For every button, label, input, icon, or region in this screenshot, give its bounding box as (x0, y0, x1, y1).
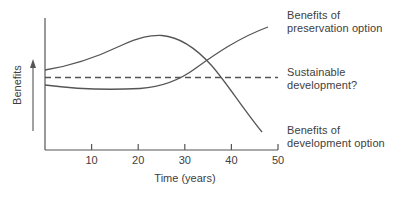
x-tick-label-50: 50 (263, 154, 293, 166)
preservation-benefits-curve (45, 35, 262, 132)
x-tick-label-10: 10 (77, 154, 107, 166)
y-axis-title: Benefits (11, 50, 23, 120)
development-option-label: Benefits of development option (287, 124, 385, 150)
x-tick-label-40: 40 (216, 154, 246, 166)
x-axis-title: Time (years) (115, 172, 255, 184)
development-benefits-curve (45, 27, 268, 89)
x-tick-label-20: 20 (123, 154, 153, 166)
x-axis-ticks (92, 144, 278, 150)
chart-figure: 10 20 30 40 50 Time (years) Benefits Ben… (0, 0, 400, 197)
x-tick-label-30: 30 (170, 154, 200, 166)
preservation-option-label: Benefits of preservation option (287, 9, 382, 35)
sustainable-development-label: Sustainable development? (287, 66, 357, 92)
y-axis-arrow-icon (30, 59, 36, 131)
